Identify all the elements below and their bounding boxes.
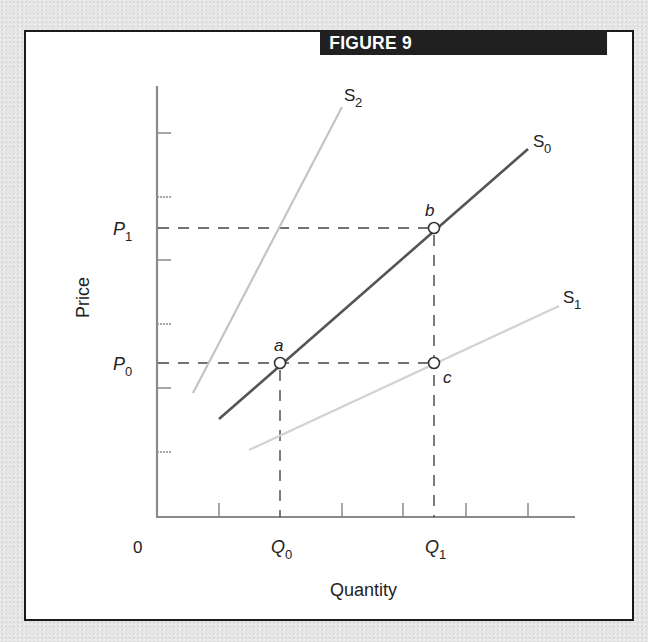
axes: [156, 86, 575, 517]
svg-text:1: 1: [439, 547, 446, 562]
svg-text:2: 2: [355, 95, 362, 110]
x-ticks: [219, 503, 528, 517]
supply-shift-chart: a b c S 2 S 0 S 1 P 1 P 0 0 Q 0 Q 1 Quan…: [0, 0, 648, 642]
origin-label: 0: [133, 538, 142, 557]
svg-text:0: 0: [285, 547, 292, 562]
svg-text:S: S: [563, 288, 574, 307]
y-axis-title: Price: [73, 277, 93, 318]
point-a: [275, 358, 286, 369]
point-a-label: a: [274, 336, 283, 355]
svg-text:Q: Q: [425, 537, 439, 557]
svg-text:P: P: [113, 354, 125, 374]
supply-curve-s1: [249, 306, 559, 450]
p1-label: P 1: [113, 219, 132, 244]
point-b-label: b: [425, 201, 434, 220]
q0-label: Q 0: [271, 537, 292, 562]
supply-curve-s2: [193, 107, 342, 393]
s2-label: S 2: [344, 86, 362, 110]
supply-curve-s0: [219, 149, 528, 419]
svg-text:Q: Q: [271, 537, 285, 557]
y-ticks: [157, 133, 171, 452]
x-axis-title: Quantity: [330, 580, 397, 600]
point-b: [429, 223, 440, 234]
svg-text:1: 1: [125, 229, 132, 244]
svg-text:S: S: [533, 132, 544, 151]
s0-label: S 0: [533, 132, 551, 156]
guide-lines: [158, 228, 434, 517]
s1-label: S 1: [563, 288, 581, 312]
p0-label: P 0: [113, 354, 132, 379]
point-c-label: c: [443, 368, 452, 387]
svg-text:1: 1: [574, 297, 581, 312]
svg-text:0: 0: [544, 141, 551, 156]
q1-label: Q 1: [425, 537, 446, 562]
svg-text:S: S: [344, 86, 355, 105]
svg-text:P: P: [113, 219, 125, 239]
svg-text:0: 0: [125, 364, 132, 379]
point-c: [429, 358, 440, 369]
